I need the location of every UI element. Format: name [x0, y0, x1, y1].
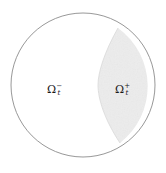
- omega-plus-subscript: t: [126, 89, 129, 97]
- omega-minus-label: Ω−t: [47, 84, 65, 95]
- omega-plus-label: Ω+t: [115, 84, 133, 95]
- omega-symbol-plus: Ω: [115, 83, 124, 96]
- omega-symbol-minus: Ω: [47, 83, 56, 96]
- figure-canvas: Ω−t Ω+t: [0, 0, 166, 173]
- domain-diagram: [0, 0, 166, 173]
- omega-minus-subscript: t: [58, 89, 61, 97]
